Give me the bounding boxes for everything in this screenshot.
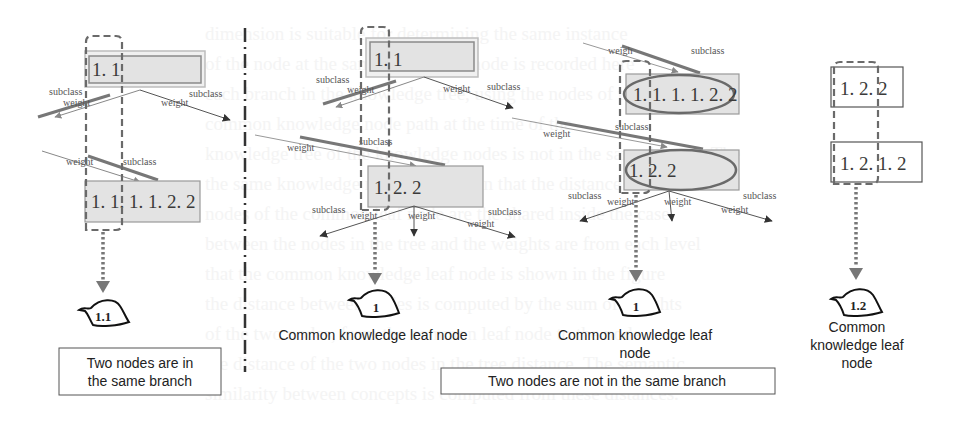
edge-label: weight <box>543 128 570 139</box>
edge-label: weigh <box>608 45 632 56</box>
leaf-caption: Common <box>829 319 886 335</box>
svg-text:Two nodes are in: Two nodes are in <box>87 355 194 371</box>
node-label: 1. 1. 1. 1. 2. 2 <box>633 84 738 105</box>
node-label: 1. 2. 1. 2 <box>840 153 907 174</box>
edge-label: weight <box>607 196 634 207</box>
edge-label: weight <box>664 196 691 207</box>
leaf-caption: Common knowledge leaf <box>558 327 712 343</box>
panel-same-branch: 1. 1 subclass weight subclass weight wei… <box>38 36 230 395</box>
node-label: 1. 1 <box>92 59 121 80</box>
leaf-label: 1.1 <box>95 309 111 324</box>
edge-label: subclass <box>359 136 392 147</box>
leaf-icon: 1.1 <box>79 300 129 326</box>
svg-text:the distance between nodes is: the distance between nodes is computed b… <box>205 293 682 314</box>
node-1-2-2: 1. 2. 2 <box>831 67 903 107</box>
edge-label: subclass <box>189 88 222 99</box>
node-1-2-1-2: 1. 2. 1. 2 <box>831 142 922 182</box>
edge-label: weight <box>350 210 377 221</box>
edge-label: subclass <box>488 206 521 217</box>
edge-label: weight <box>467 218 494 229</box>
leaf-label: 1 <box>633 299 640 314</box>
edge-label: weight <box>408 210 435 221</box>
leaf-icon: 1.2 <box>831 289 882 316</box>
edge-label: subclass <box>312 204 345 215</box>
edge-label: subclass <box>487 81 520 92</box>
leaf-label: 1 <box>373 300 380 315</box>
edge-label: weight <box>721 204 748 215</box>
node-1-2-2: 1. 2. 2 <box>368 166 483 207</box>
edge-label: subclass <box>691 45 724 56</box>
caption-same-branch: Two nodes are in the same branch <box>59 348 221 395</box>
edge-label: subclass <box>49 86 82 97</box>
leaf-caption: node <box>619 345 650 361</box>
panel-prefix-example: 1. 2. 2 1. 2. 1. 2 1.2 Common knowledge … <box>810 62 922 371</box>
node-1-1-1-1-2-2: 1. 1. 1. 1. 2. 2 <box>85 181 200 222</box>
leaf-label: 1.2 <box>850 298 866 313</box>
edge-label: subclass <box>743 190 776 201</box>
edge-label: weight <box>66 156 93 167</box>
leaf-caption: node <box>841 355 872 371</box>
svg-text:Two nodes are not in the same: Two nodes are not in the same branch <box>488 373 726 389</box>
node-label: 1. 2. 2 <box>374 177 422 198</box>
edge-label: subclass <box>316 74 349 85</box>
svg-text:each branch in the knowledge t: each branch in the knowledge tree, using… <box>205 83 641 104</box>
edge-label: subclass <box>123 156 156 167</box>
svg-text:the same branch: the same branch <box>88 373 192 389</box>
node-1-1: 1. 1 <box>85 51 205 87</box>
node-1-1-1-1-2-2: 1. 1. 1. 1. 2. 2 <box>624 74 739 114</box>
node-1-1: 1. 1 <box>366 38 478 77</box>
leaf-caption: knowledge leaf <box>810 337 904 353</box>
edge-label: weight <box>443 83 470 94</box>
leaf-caption: Common knowledge leaf node <box>278 327 467 343</box>
node-label: 1. 1. 1. 1. 2. 2 <box>91 191 196 212</box>
edge-label: weight <box>161 97 188 108</box>
caption-not-same-branch: Two nodes are not in the same branch <box>441 368 775 394</box>
branch-comparison-diagram: dimension is suitable for determining th… <box>0 0 959 423</box>
node-label: 1. 2. 2 <box>840 78 888 99</box>
node-label: 1. 2. 2 <box>629 160 677 181</box>
svg-text:between the nodes in the tree: between the nodes in the tree and the we… <box>205 233 701 254</box>
edge-label: subclass <box>568 190 601 201</box>
svg-text:that the common knowledge leaf: that the common knowledge leaf node is s… <box>205 263 665 284</box>
edge-label: weight <box>287 142 314 153</box>
node-1-2-2: 1. 2. 2 <box>624 150 739 190</box>
